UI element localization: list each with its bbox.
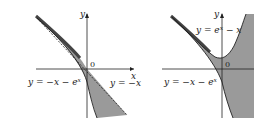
left-y-label: y xyxy=(79,9,86,19)
right-y-label: y xyxy=(213,9,220,19)
right-origin-label: 0 xyxy=(225,60,230,69)
left-shaded-region xyxy=(37,18,127,118)
diagram-canvas: y x 0 y = −x − ex y = −x y 0 y = ex − x … xyxy=(0,0,254,122)
right-curve2-label: y = −x − ex xyxy=(163,76,218,87)
left-curve2-label: y = −x xyxy=(109,78,141,88)
left-panel: y x 0 y = −x − ex y = −x xyxy=(27,9,141,118)
left-origin-label: 0 xyxy=(90,60,95,69)
left-y-axis-arrow-icon xyxy=(85,13,89,18)
right-curve1-label: y = ex − x xyxy=(195,24,241,35)
left-converging-band xyxy=(36,16,80,58)
left-curve-neg-x-minus-exp xyxy=(37,18,97,118)
right-y-axis-arrow-icon xyxy=(220,13,224,18)
left-curve1-label: y = −x − ex xyxy=(27,76,82,87)
right-panel: y 0 y = ex − x y = −x − ex xyxy=(162,9,254,118)
